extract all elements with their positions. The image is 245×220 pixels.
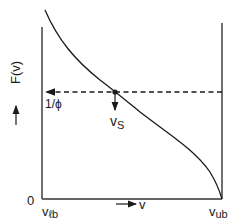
- origin-label: 0: [27, 193, 34, 208]
- diagram-canvas: vS 1/ϕ F(v) 0 vℓb vub v: [0, 0, 245, 220]
- f-curve: [45, 10, 222, 199]
- intersection-point: [112, 89, 117, 94]
- x-axis-label: v: [139, 197, 146, 212]
- y-axis-label: F(v): [8, 61, 23, 84]
- lower-bound-label: vℓb: [42, 204, 58, 220]
- threshold-label: 1/ϕ: [45, 97, 62, 111]
- upper-bound-label: vub: [209, 204, 228, 220]
- solution-label: vS: [110, 113, 124, 131]
